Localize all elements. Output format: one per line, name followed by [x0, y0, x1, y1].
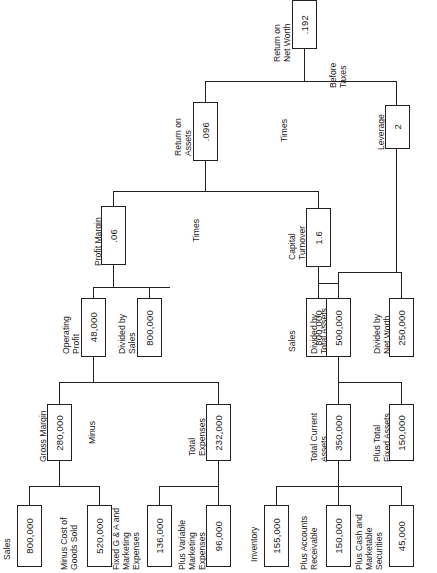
connector-ct-stem: [318, 266, 319, 284]
value-total-current-assets: 350,000: [334, 415, 344, 451]
value-return-on-net-worth: .192: [300, 15, 310, 34]
connector-to-tfa: [401, 382, 402, 404]
operator-before-taxes: Before Taxes: [329, 46, 349, 88]
label-return-on-net-worth: Return on Net Worth: [273, 2, 293, 62]
connector-ta-stem: [338, 356, 339, 383]
connector-pm-horizontal: [93, 287, 170, 288]
connector-to-sales-gm: [29, 486, 30, 505]
connector-to-capital-turnover: [318, 191, 319, 209]
connector-lev-horizontal: [338, 272, 402, 273]
value-profit-margin: .06: [109, 229, 119, 243]
label-accounts-receivable: Plus Accounts Receivable: [300, 508, 320, 570]
node-total-assets[interactable]: 500,000: [326, 298, 351, 357]
label-inventory: Inventory: [250, 510, 260, 562]
label-total-expenses: Total Expenses: [188, 406, 208, 456]
connector-op-stem: [93, 356, 94, 383]
connector-to-fixed-ga: [159, 486, 160, 505]
connector-gm-horizontal: [29, 486, 100, 487]
node-inventory[interactable]: 155,000: [264, 505, 289, 567]
value-operating-profit: 48,000: [89, 312, 99, 342]
value-inventory: 155,000: [272, 518, 282, 554]
value-fixed-ga-marketing: 136,000: [155, 518, 165, 554]
value-capital-turnover: 1.6: [314, 231, 324, 245]
connector-to-roa: [205, 81, 206, 102]
label-capital-turnover: Capital Turnover: [288, 206, 308, 260]
node-profit-margin[interactable]: .06: [101, 206, 126, 265]
label-sales-gross-margin: Sales: [3, 512, 13, 560]
node-net-worth[interactable]: 250,000: [389, 298, 414, 357]
connector-to-cogs: [99, 486, 100, 505]
connector-root-horizontal: [205, 81, 397, 82]
connector-to-net-worth: [401, 272, 402, 299]
label-sales-profit-margin: Divided by Sales: [118, 300, 138, 354]
connector-ta-horizontal: [338, 382, 402, 383]
connector-pm-stem: [113, 264, 114, 288]
node-gross-margin[interactable]: 280,000: [47, 404, 72, 461]
value-cost-of-goods-sold: 520,000: [95, 518, 105, 554]
connector-to-variable-mktg: [218, 486, 219, 505]
label-operating-profit: Operating Profit: [62, 300, 82, 354]
connector-to-total-assets-lev: [338, 272, 339, 299]
node-total-expenses[interactable]: 232,000: [206, 404, 231, 461]
value-variable-marketing: 96,000: [214, 521, 224, 551]
value-cash-securities: 45,000: [397, 521, 407, 551]
connector-roa-horizontal: [113, 191, 319, 192]
node-accounts-receivable[interactable]: 150,000: [326, 505, 351, 567]
connector-tca-stem: [338, 460, 339, 487]
value-total-expenses: 232,000: [214, 415, 224, 451]
node-fixed-ga-marketing[interactable]: 136,000: [147, 505, 172, 567]
connector-ct-horizontal: [318, 283, 339, 284]
connector-to-profit-margin: [113, 191, 114, 207]
connector-to-inventory: [276, 486, 277, 505]
connector-te-horizontal: [159, 486, 219, 487]
label-cash-securities: Plus Cash and Marketable Securities: [355, 504, 385, 570]
value-sales-profit-margin: 800,000: [145, 310, 155, 346]
node-return-on-net-worth[interactable]: .192: [292, 0, 317, 49]
value-total-assets: 500,000: [334, 310, 344, 346]
value-return-on-assets: .096: [201, 122, 211, 141]
connector-to-leverage: [396, 81, 397, 105]
connector-to-total-expenses: [218, 382, 219, 404]
connector-te-stem: [218, 460, 219, 487]
label-sales-capital-turnover: Sales: [288, 304, 298, 352]
label-return-on-assets: Return on Assets: [174, 104, 194, 156]
value-accounts-receivable: 150,000: [334, 518, 344, 554]
node-sales-gross-margin[interactable]: 800,000: [17, 505, 42, 567]
node-sales-profit-margin[interactable]: 800,000: [137, 298, 162, 357]
node-capital-turnover[interactable]: 1.6: [306, 208, 331, 267]
connector-gm-stem: [59, 460, 60, 487]
connector-to-sales-ct: [318, 283, 319, 299]
connector-root-stem: [304, 48, 305, 82]
node-total-current-assets[interactable]: 350,000: [326, 404, 351, 461]
connector-leverage-stem: [396, 148, 397, 273]
operator-times-mid: Times: [192, 204, 202, 242]
value-total-fixed-assets: 150,000: [397, 415, 407, 451]
connector-op-horizontal: [59, 382, 219, 383]
connector-to-gross-margin: [59, 382, 60, 404]
connector-to-cash: [401, 486, 402, 505]
label-variable-marketing: Plus Variable Marketing Expenses: [178, 504, 208, 570]
node-cash-securities[interactable]: 45,000: [389, 505, 414, 567]
node-cost-of-goods-sold[interactable]: 520,000: [87, 505, 112, 567]
value-sales-gross-margin: 800,000: [25, 518, 35, 554]
node-return-on-assets[interactable]: .096: [193, 102, 218, 161]
label-cost-of-goods-sold: Minus Cost of Goods Sold: [60, 508, 80, 570]
node-leverage[interactable]: 2: [385, 105, 410, 149]
value-net-worth: 250,000: [397, 310, 407, 346]
value-leverage: 2: [393, 124, 403, 129]
label-fixed-ga-marketing: Fixed G & A and Marketing Expenses: [112, 500, 142, 570]
operator-times-top: Times: [280, 104, 290, 142]
node-variable-marketing[interactable]: 96,000: [206, 505, 231, 567]
node-operating-profit[interactable]: 48,000: [81, 298, 106, 357]
connector-roa-stem: [205, 160, 206, 192]
operator-minus: Minus: [88, 406, 98, 444]
diagram-canvas: Return on Net Worth .192 Before Taxes Re…: [0, 0, 437, 573]
value-gross-margin: 280,000: [55, 415, 65, 451]
connector-to-ar: [338, 486, 339, 505]
connector-to-tca: [338, 382, 339, 404]
node-total-fixed-assets[interactable]: 150,000: [389, 404, 414, 461]
